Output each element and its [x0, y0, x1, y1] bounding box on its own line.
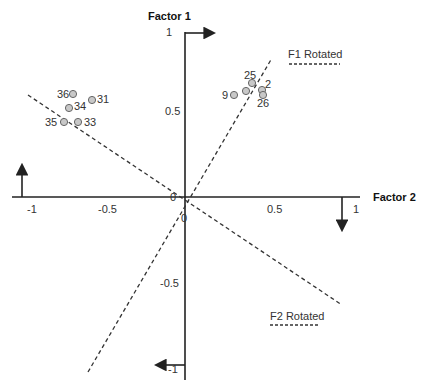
- tick-origin-0: 0: [170, 191, 176, 203]
- svg-text:26: 26: [257, 97, 269, 109]
- svg-text:31: 31: [97, 93, 109, 105]
- svg-text:9: 9: [222, 89, 228, 101]
- point-2: 2: [258, 78, 271, 94]
- tick-v-neg0.5: -0.5: [160, 277, 179, 289]
- tick-h-0.5: 0.5: [267, 203, 282, 215]
- tick-v-neg1: -1: [168, 363, 178, 375]
- tick-h-neg1: -1: [27, 203, 37, 215]
- tick-h-0: 0: [181, 212, 187, 224]
- svg-text:25: 25: [244, 69, 256, 81]
- point-33: 33: [74, 116, 96, 128]
- point-34: 34: [65, 100, 86, 112]
- point-31: 31: [88, 93, 109, 105]
- legend-f2-rotated: F2 Rotated: [270, 310, 324, 322]
- point-9: 9: [222, 89, 238, 101]
- factor2-title: Factor 2: [373, 191, 416, 203]
- svg-text:33: 33: [84, 116, 96, 128]
- point-35: 35: [45, 116, 68, 128]
- point-25: 25: [244, 69, 256, 87]
- svg-text:2: 2: [265, 78, 271, 90]
- point-26: 26: [257, 91, 269, 109]
- tick-h-neg0.5: -0.5: [98, 203, 117, 215]
- factor-rotation-diagram: Factor 1 Factor 2 1 0.5 0 -0.5 -1 -1 -0.…: [0, 0, 423, 387]
- tick-h-1: 1: [353, 203, 359, 215]
- point-36: 36: [57, 88, 77, 100]
- factor1-title: Factor 1: [148, 10, 191, 22]
- svg-text:35: 35: [45, 116, 57, 128]
- tick-v-1: 1: [166, 26, 172, 38]
- svg-text:36: 36: [57, 88, 69, 100]
- tick-v-0.5: 0.5: [165, 105, 180, 117]
- legend-f1-rotated: F1 Rotated: [288, 48, 342, 60]
- svg-text:34: 34: [74, 100, 86, 112]
- point-unlabeled: [242, 87, 249, 94]
